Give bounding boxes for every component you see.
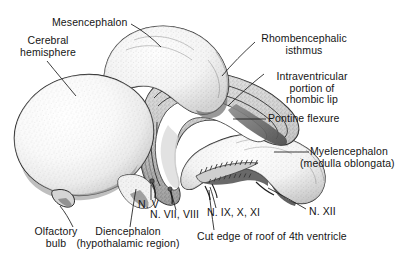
label-myelencephalon-line2: (medulla oblongata) — [300, 158, 395, 170]
label-nerve-ix-x-xi-text: N. IX, X, XI — [207, 207, 260, 219]
label-pontine-flexure: Pontine flexure — [268, 113, 340, 125]
label-nerve-ix-x-xi: N. IX, X, XI — [207, 207, 260, 219]
label-mesencephalon-text: Mesencephalon — [52, 17, 127, 29]
leader-olfactory-bulb — [60, 206, 73, 227]
label-intraventricular-rhombic-lip: Intraventricular portion of rhombic lip — [265, 71, 359, 106]
label-cerebral-hemisphere: Cerebral hemisphere — [8, 35, 88, 58]
label-cut-edge-text: Cut edge of roof of 4th ventricle — [197, 231, 347, 243]
myelencephalon-structure — [181, 133, 325, 206]
label-cerebral-hemisphere-line2: hemisphere — [8, 47, 88, 59]
label-rhombic-lip-line3: rhombic lip — [265, 94, 359, 106]
label-rhombencephalic-isthmus-line1: Rhombencephalic — [256, 33, 352, 45]
label-nerve-vii-viii: N. VII, VIII — [150, 209, 199, 221]
label-nerve-xii: N. XII — [309, 206, 336, 218]
label-cerebral-hemisphere-line1: Cerebral — [8, 35, 88, 47]
label-nerve-vii-viii-text: N. VII, VIII — [150, 209, 199, 221]
label-myelencephalon-line1: Myelencephalon — [310, 146, 395, 158]
label-diencephalon-line1: Diencephalon — [72, 226, 184, 238]
label-nerve-xii-text: N. XII — [309, 206, 336, 218]
label-diencephalon: Diencephalon (hypothalamic region) — [72, 226, 184, 249]
label-rhombencephalic-isthmus: Rhombencephalic isthmus — [256, 33, 352, 56]
label-diencephalon-line2: (hypothalamic region) — [72, 238, 184, 250]
label-rhombencephalic-isthmus-line2: isthmus — [256, 45, 352, 57]
label-cut-edge-4th-ventricle: Cut edge of roof of 4th ventricle — [197, 231, 347, 243]
label-rhombic-lip-line1: Intraventricular — [265, 71, 359, 83]
brain-diagram-figure: Mesencephalon Cerebral hemisphere Rhombe… — [0, 0, 411, 265]
label-myelencephalon: Myelencephalon (medulla oblongata) — [310, 146, 395, 169]
label-mesencephalon: Mesencephalon — [52, 17, 127, 29]
label-pontine-flexure-text: Pontine flexure — [268, 113, 340, 125]
